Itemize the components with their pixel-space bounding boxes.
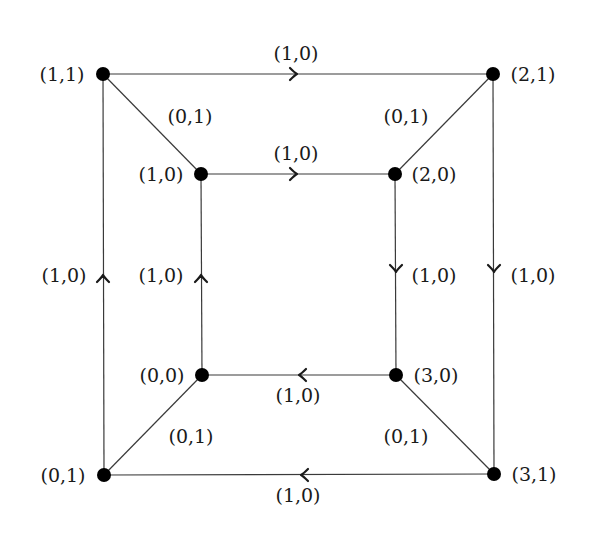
- edge-label: (1,0): [273, 42, 318, 64]
- node-label: (0,1): [40, 464, 85, 486]
- edge-bottom-outer: [104, 474, 494, 475]
- node-label: (3,1): [511, 463, 556, 485]
- edge-label: (0,1): [168, 425, 213, 447]
- node-30: [389, 368, 403, 382]
- node-label: (1,1): [39, 63, 84, 85]
- graph-diagram: (1,0)(1,0)(1,0)(1,0)(1,0)(1,0)(1,0)(1,0)…: [0, 0, 594, 539]
- node-31: [487, 467, 501, 481]
- node-10: [194, 167, 208, 181]
- edge-right-outer: [493, 74, 494, 474]
- edge-label: (0,1): [383, 425, 428, 447]
- edge-label: (1,0): [41, 264, 86, 286]
- node-label: (2,0): [411, 163, 456, 185]
- edge-right-inner: [395, 174, 396, 375]
- node-label: (0,0): [139, 364, 184, 386]
- edge-label: (1,0): [273, 142, 318, 164]
- node-00: [195, 368, 209, 382]
- node-01: [97, 468, 111, 482]
- node-label: (2,1): [510, 63, 555, 85]
- edge-label: (1,0): [510, 264, 555, 286]
- node-11: [96, 67, 110, 81]
- node-label: (1,0): [138, 163, 183, 185]
- edge-label: (1,0): [275, 484, 320, 506]
- node-label: (3,0): [413, 364, 458, 386]
- edge-label: (0,1): [383, 105, 428, 127]
- labels-layer: (1,0)(1,0)(1,0)(1,0)(1,0)(1,0)(1,0)(1,0)…: [39, 42, 556, 506]
- node-20: [388, 167, 402, 181]
- edge-label: (0,1): [167, 105, 212, 127]
- node-21: [486, 67, 500, 81]
- edge-label: (1,0): [138, 264, 183, 286]
- edge-label: (1,0): [411, 264, 456, 286]
- edge-label: (1,0): [275, 384, 320, 406]
